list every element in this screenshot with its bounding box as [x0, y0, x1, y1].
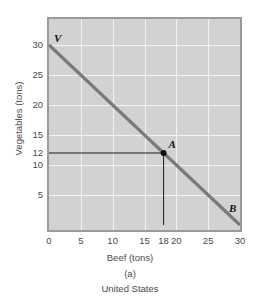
x-tick-label: 0: [46, 236, 51, 246]
x-tick-label: 25: [203, 236, 214, 246]
plot-inner: V A B: [49, 19, 240, 230]
x-tick-label: 20: [171, 236, 182, 246]
x-tick-label: 15: [139, 236, 150, 246]
panel-caption: United States: [0, 283, 260, 294]
x-tick-label: 18: [158, 236, 169, 246]
y-axis-title: Vegetables (tons): [13, 54, 24, 184]
x-axis-title: Beef (tons): [0, 252, 260, 263]
point-label-b: B: [229, 203, 236, 214]
x-tick-label: 5: [78, 236, 83, 246]
x-tick-label: 30: [235, 236, 246, 246]
x-tick-label: 10: [107, 236, 118, 246]
y-tick-label: 5: [3, 190, 43, 200]
ppf-plot-svg: [49, 19, 240, 230]
ppf-line: [49, 45, 240, 225]
data-point-marker-a: [161, 150, 167, 156]
figure-panel-a: V A B 3025201512105 05101518202530 Veget…: [0, 0, 260, 303]
x-axis-tick-labels: 05101518202530: [0, 236, 260, 250]
point-label-a: A: [169, 139, 176, 150]
point-label-v: V: [54, 33, 61, 44]
panel-letter: (a): [0, 268, 260, 279]
y-tick-label: 30: [3, 40, 43, 50]
plot-area: V A B: [47, 17, 242, 232]
